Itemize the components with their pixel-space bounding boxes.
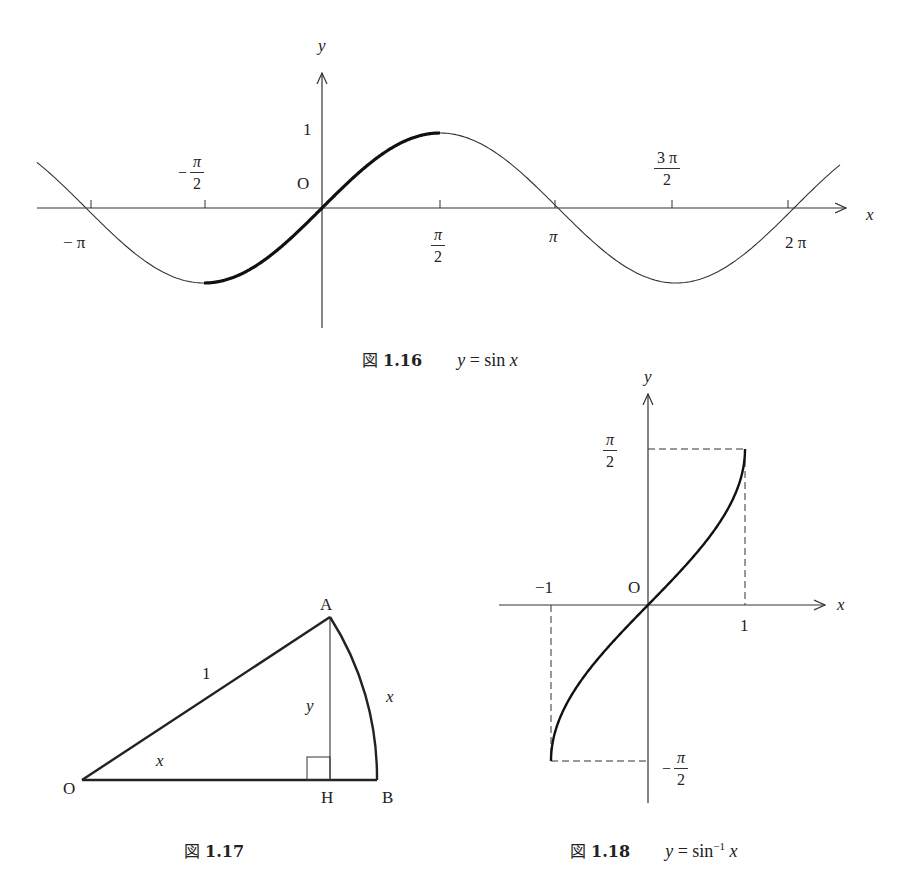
minus-sign: −: [662, 760, 671, 778]
figure-1-18-plot: [499, 394, 825, 803]
frac-den: 2: [663, 169, 671, 188]
eq-lhs: y: [457, 350, 465, 370]
arc-label: x: [386, 688, 394, 705]
point-A-label: A: [320, 596, 332, 613]
hypotenuse-label: 1: [202, 665, 211, 682]
caption-number: 1.18: [591, 842, 630, 861]
x-tick-neg-half-pi: − π2: [178, 154, 204, 192]
frac-den: 2: [434, 246, 442, 265]
y-tick-half-pi: π2: [603, 432, 617, 470]
caption-number: 1.16: [383, 351, 422, 370]
arc-AB: [330, 617, 377, 780]
figure-1-16-plot: [0, 0, 899, 871]
eq-rhs: = sin: [673, 841, 713, 861]
caption-prefix: 図: [570, 842, 586, 861]
eq-sup: −1: [713, 840, 725, 852]
frac-num: π: [603, 432, 617, 451]
eq-rhs: = sin: [465, 350, 510, 370]
point-B-label: B: [382, 789, 393, 806]
x-axis-label: x: [837, 596, 845, 613]
angle-label: x: [156, 752, 164, 769]
point-O-label: O: [63, 780, 75, 797]
minus-sign: −: [178, 164, 187, 182]
x-tick-neg-pi: − π: [63, 234, 85, 251]
x-axis-label: x: [866, 206, 874, 223]
y-axis-label: y: [318, 37, 326, 54]
figure-1-18-caption: 図 1.18 y = sin−1 x: [570, 838, 738, 862]
origin-label: O: [297, 175, 309, 192]
caption-prefix: 図: [362, 351, 378, 370]
frac-den: 2: [677, 769, 685, 788]
x-tick-half-pi: π2: [431, 227, 445, 265]
y-tick-neg-half-pi: − π2: [662, 750, 688, 788]
eq-lhs: y: [665, 841, 673, 861]
point-H-label: H: [321, 789, 333, 806]
segment-OA: [82, 617, 330, 780]
figure-1-17-caption: 図 1.17: [184, 838, 244, 862]
right-angle-mark: [307, 757, 330, 780]
x-tick-three-half-pi: 3 π2: [654, 150, 680, 188]
frac-den: 2: [606, 451, 614, 470]
x-tick-neg1: −1: [535, 579, 553, 596]
x-ticks: [91, 200, 788, 208]
caption-number: 1.17: [205, 842, 244, 861]
caption-equation: y = sin x: [457, 350, 518, 370]
frac-den: 2: [193, 173, 201, 192]
origin-label: O: [628, 579, 640, 596]
x-tick-two-pi: 2 π: [785, 234, 806, 251]
caption-equation: y = sin−1 x: [665, 841, 737, 861]
frac-num: 3 π: [654, 150, 680, 169]
eq-var: x: [510, 350, 518, 370]
frac-num: π: [431, 227, 445, 246]
frac-num: π: [674, 750, 688, 769]
figure-1-17-diagram: [82, 617, 377, 780]
figure-1-16-caption: 図 1.16 y = sin x: [362, 347, 518, 371]
caption-prefix: 図: [184, 842, 200, 861]
height-label: y: [306, 697, 314, 714]
frac-num: π: [190, 154, 204, 173]
eq-var: x: [730, 841, 738, 861]
x-tick-pos1: 1: [740, 617, 749, 634]
y-tick-1: 1: [303, 121, 312, 138]
x-tick-pi: π: [549, 228, 558, 245]
y-axis-label: y: [644, 368, 652, 385]
